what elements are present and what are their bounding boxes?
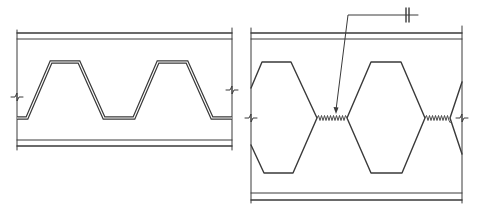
beam-diagrams: [0, 0, 477, 213]
break-mark-icon: [226, 86, 238, 94]
left-panel-corrugated-web-beam: [11, 28, 238, 150]
break-mark-icon: [11, 93, 23, 101]
weld-seam: [425, 116, 451, 124]
weld-callout: [334, 8, 419, 114]
weld-seam: [317, 116, 347, 121]
arrowhead-icon: [334, 107, 339, 114]
diagram-canvas: [0, 0, 477, 213]
break-mark-icon: [456, 114, 468, 122]
hexagonal-opening-left-partial: [251, 62, 317, 173]
right-panel-castellated-beam: [245, 8, 468, 203]
hexagonal-opening: [347, 62, 425, 173]
break-mark-icon: [245, 114, 257, 122]
